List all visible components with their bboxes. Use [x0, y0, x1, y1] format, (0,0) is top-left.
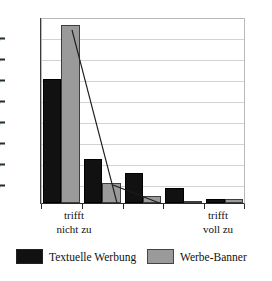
bar-group	[82, 18, 123, 203]
x-label-right: trifft voll zu	[178, 209, 258, 236]
tick-mark	[0, 79, 5, 81]
bar-textuelle-werbung	[206, 199, 224, 203]
bar-textuelle-werbung	[165, 188, 183, 203]
tick-mark	[0, 58, 5, 60]
legend-label: Textuelle Werbung	[49, 251, 136, 263]
bar-werbe-banner	[61, 25, 79, 203]
tick-mark	[0, 142, 5, 144]
bar-werbe-banner	[102, 183, 120, 203]
tick-mark	[0, 37, 5, 39]
bar-group	[123, 18, 164, 203]
tick-mark	[0, 100, 5, 102]
bar-textuelle-werbung	[125, 173, 143, 203]
bar-textuelle-werbung	[84, 159, 102, 203]
x-axis-labels: trifft nicht zu trifft voll zu	[0, 209, 272, 245]
bar-group	[163, 18, 204, 203]
legend-item-werbe-banner: Werbe-Banner	[147, 249, 247, 264]
legend-label: Werbe-Banner	[180, 251, 247, 263]
bar-group	[41, 18, 82, 203]
bars-container	[41, 18, 245, 203]
tick-mark	[0, 163, 5, 165]
tick-mark	[0, 121, 5, 123]
legend-item-textuelle-werbung: Textuelle Werbung	[16, 249, 136, 264]
chart-legend: Textuelle Werbung Werbe-Banner	[16, 249, 256, 271]
x-label-left: trifft nicht zu	[34, 209, 114, 236]
bar-werbe-banner	[225, 199, 243, 203]
y-axis: 80% 70% 60% 50% 40% 30% 20% 10%	[0, 0, 41, 222]
bar-group	[204, 18, 245, 203]
bar-werbe-banner	[143, 196, 161, 203]
bar-textuelle-werbung	[43, 79, 61, 203]
legend-swatch-icon	[147, 249, 174, 264]
legend-swatch-icon	[16, 249, 43, 264]
tick-mark	[0, 184, 5, 186]
bar-werbe-banner	[184, 201, 202, 203]
bar-chart: 80% 70% 60% 50% 40% 30% 20% 10% trifft n…	[0, 0, 272, 281]
